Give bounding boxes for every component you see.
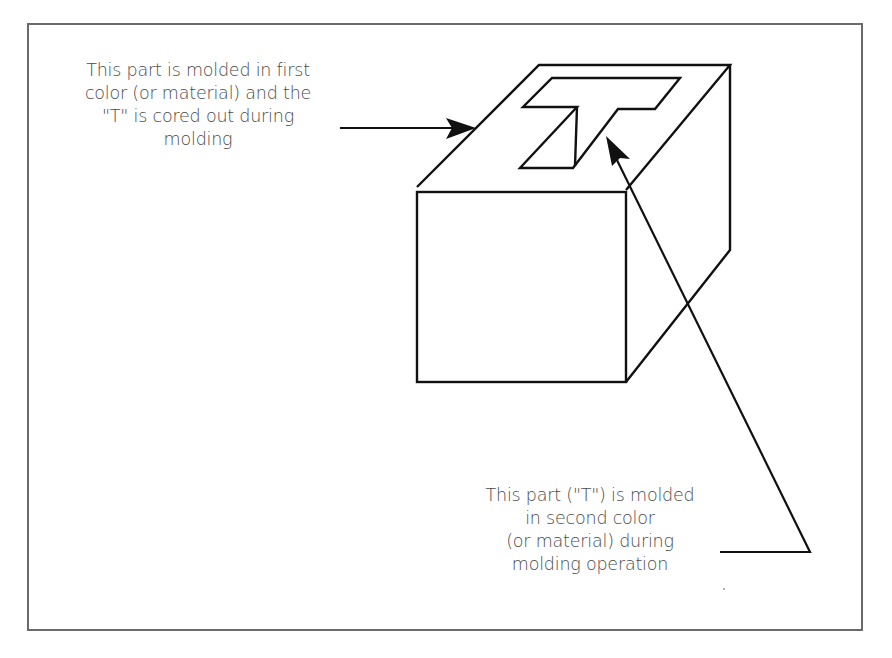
callout-line: molding <box>58 128 338 151</box>
callout-first-shot-text: This part is molded in first color (or m… <box>58 59 338 151</box>
callout-arrow-first <box>340 118 476 139</box>
stray-mark <box>723 588 725 590</box>
callout-line: molding operation <box>460 553 720 576</box>
callout-line: in second color <box>460 507 720 530</box>
callout-second-shot-text: This part ("T") is molded in second colo… <box>460 484 720 576</box>
callout-line: This part ("T") is molded <box>460 484 720 507</box>
block-front-face <box>417 192 626 382</box>
t-cavity-depth-edge <box>575 107 577 166</box>
callout-line: This part is molded in first <box>58 59 338 82</box>
block-right-face <box>626 65 730 382</box>
callout-line: "T" is cored out during <box>58 105 338 128</box>
callout-line: (or material) during <box>460 530 720 553</box>
callout-line: color (or material) and the <box>58 82 338 105</box>
